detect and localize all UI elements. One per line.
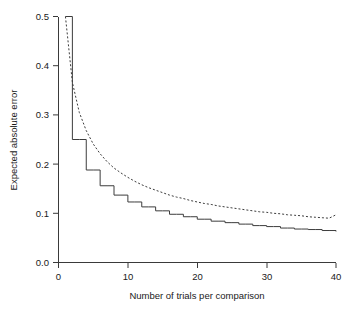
y-tick-label: 0.4 [36, 60, 49, 71]
y-tick-label: 0.0 [36, 257, 49, 268]
x-tick-label: 0 [56, 271, 61, 282]
y-axis-ticks [53, 17, 58, 263]
chart-canvas: 0.0 0.1 0.2 0.3 0.4 0.5 0 10 20 30 40 Nu… [0, 0, 347, 322]
y-axis-tick-labels: 0.0 0.1 0.2 0.3 0.4 0.5 [36, 11, 49, 268]
y-tick-label: 0.5 [36, 11, 49, 22]
series-line-exact [65, 17, 336, 232]
y-tick-label: 0.2 [36, 159, 49, 170]
x-tick-label: 10 [123, 271, 134, 282]
y-tick-label: 0.3 [36, 109, 49, 120]
x-axis-title: Number of trials per comparison [129, 290, 264, 301]
x-axis-tick-labels: 0 10 20 30 40 [56, 271, 341, 282]
y-axis-title: Expected absolute error [8, 90, 19, 191]
y-tick-label: 0.1 [36, 208, 49, 219]
series-line-approximation [65, 17, 336, 219]
x-axis-ticks [59, 263, 337, 268]
x-tick-label: 40 [331, 271, 342, 282]
chart-figure: 0.0 0.1 0.2 0.3 0.4 0.5 0 10 20 30 40 Nu… [0, 0, 347, 322]
x-tick-label: 20 [192, 271, 203, 282]
x-tick-label: 30 [262, 271, 273, 282]
